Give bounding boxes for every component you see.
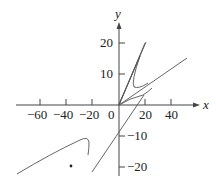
x-tick-label: −60 [27,107,47,122]
y-tick-label: 10 [100,66,113,81]
curve-upper-inner [119,88,152,105]
y-tick-label: −10 [127,128,147,143]
curve-cusp [119,56,148,104]
y-axis-arrow-icon [117,22,122,29]
isolated-point [70,165,73,168]
x-tick-label: 20 [139,107,152,122]
x-axis-label: x [202,97,209,112]
x-tick-label: −40 [53,107,73,122]
x-ticks [40,99,171,105]
chart: x y −60 −40 −20 0 20 40 20 10 −10 −20 [0,0,216,185]
plot-area: x y −60 −40 −20 0 20 40 20 10 −10 −20 [0,0,216,185]
x-axis-arrow-icon [193,103,200,108]
x-tick-label: −20 [79,107,99,122]
curve-lower-left [17,138,89,174]
y-axis-label: y [113,6,121,21]
origin-label: 0 [108,107,115,122]
y-tick-label: 20 [100,35,113,50]
x-tick-label: 40 [165,107,178,122]
y-tick-label: −20 [127,159,147,174]
